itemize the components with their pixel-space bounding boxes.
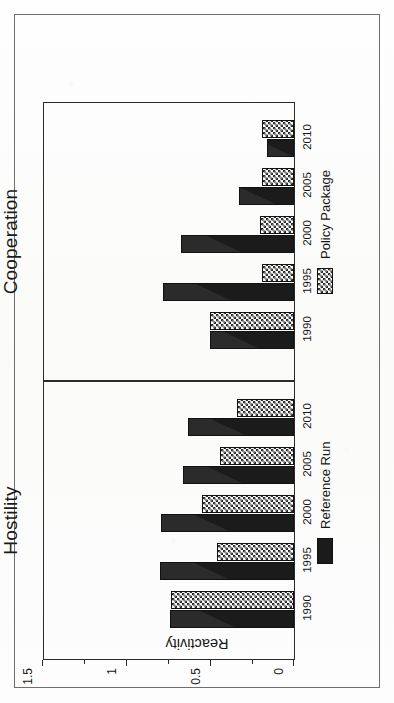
x-axis-tick-label: 2005 — [301, 164, 313, 206]
x-axis-tick-label: 2005 — [301, 443, 313, 485]
legend: Reference Run Policy Package — [317, 102, 351, 660]
panel-title-cooperation: Cooperation — [0, 102, 22, 381]
bar-reference-run[interactable] — [163, 283, 294, 301]
bar-reference-run[interactable] — [267, 139, 294, 157]
bar-policy-package[interactable] — [262, 264, 294, 282]
plot-area-cooperation: 19901995200020052010 — [42, 103, 294, 380]
bar-policy-package[interactable] — [217, 543, 294, 561]
legend-label-policy-package: Policy Package — [318, 170, 333, 259]
legend-swatch-reference-run — [317, 538, 333, 564]
y-axis-tick-label: 0 — [272, 668, 286, 703]
panel-hostility: 19901995200020052010 — [43, 381, 295, 660]
bar-policy-package[interactable] — [220, 447, 294, 465]
y-axis-tick — [42, 660, 43, 666]
y-axis-tick — [293, 660, 294, 666]
x-axis-tick-label: 2000 — [301, 491, 313, 533]
plot-area-hostility: 19901995200020052010 — [42, 382, 294, 659]
x-axis-tick-label: 1995 — [301, 539, 313, 581]
bar-policy-package[interactable] — [202, 495, 294, 513]
x-axis-tick-label: 1995 — [301, 260, 313, 302]
y-axis-minor-tick — [252, 660, 253, 664]
bar-reference-run[interactable] — [160, 562, 294, 580]
x-axis-tick-label: 2000 — [301, 212, 313, 254]
bar-policy-package[interactable] — [171, 591, 294, 609]
x-axis-tick-label: 2010 — [301, 395, 313, 437]
y-axis-minor-tick — [168, 660, 169, 664]
bar-policy-package[interactable] — [260, 216, 294, 234]
bar-reference-run[interactable] — [188, 418, 294, 436]
y-axis-tick-label: 0.5 — [189, 668, 203, 703]
y-axis-tick — [210, 660, 211, 666]
y-axis-tick-label: 1 — [105, 668, 119, 703]
bar-chart-figure: Reactivity 00.511.5 Hostility 1990199520… — [21, 20, 373, 684]
panel-title-hostility: Hostility — [0, 381, 22, 660]
bar-reference-run[interactable] — [183, 466, 294, 484]
bar-reference-run[interactable] — [181, 235, 294, 253]
y-axis-minor-tick — [84, 660, 85, 664]
y-axis-tick-label: 1.5 — [21, 668, 35, 703]
bar-policy-package[interactable] — [210, 312, 294, 330]
legend-label-reference-run: Reference Run — [318, 441, 333, 528]
x-axis-tick-label: 1990 — [301, 308, 313, 350]
legend-swatch-policy-package — [317, 268, 333, 294]
bar-reference-run[interactable] — [210, 331, 294, 349]
bar-reference-run[interactable] — [161, 514, 294, 532]
rotated-figure-wrapper: Reactivity 00.511.5 Hostility 1990199520… — [21, 20, 373, 684]
bar-policy-package[interactable] — [262, 120, 294, 138]
bar-policy-package[interactable] — [237, 399, 294, 417]
x-axis-tick-label: 2010 — [301, 116, 313, 158]
bar-policy-package[interactable] — [262, 168, 294, 186]
bar-reference-run[interactable] — [239, 187, 294, 205]
x-axis-tick-label: 1990 — [301, 587, 313, 629]
legend-item-reference-run: Reference Run — [317, 441, 333, 563]
y-axis-tick — [126, 660, 127, 666]
legend-item-policy-package: Policy Package — [317, 170, 333, 294]
bar-reference-run[interactable] — [170, 610, 294, 628]
panel-cooperation: 19901995200020052010 — [43, 102, 295, 381]
